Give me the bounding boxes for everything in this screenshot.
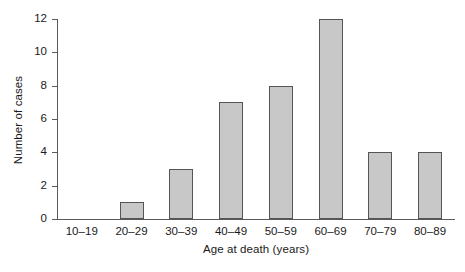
plot-area: 024681012 10–1920–2930–3940–4950–5960–69… — [57, 19, 455, 219]
bar — [319, 19, 343, 219]
x-tick-label: 80–89 — [405, 225, 455, 237]
y-tick-label: 6 — [23, 113, 47, 125]
x-tick-label: 50–59 — [256, 225, 306, 237]
bar-slot: 30–39 — [157, 19, 207, 219]
bar — [368, 152, 392, 219]
x-tick-label: 70–79 — [356, 225, 406, 237]
x-tick-label: 60–69 — [306, 225, 356, 237]
x-tick-label: 40–49 — [206, 225, 256, 237]
bar-slot: 50–59 — [256, 19, 306, 219]
bar — [219, 102, 243, 219]
bar-slot: 70–79 — [356, 19, 406, 219]
y-tick-label: 4 — [23, 146, 47, 158]
bar-slot: 10–19 — [57, 19, 107, 219]
bar-slot: 60–69 — [306, 19, 356, 219]
bar-slot: 20–29 — [107, 19, 157, 219]
x-tick-label: 10–19 — [57, 225, 107, 237]
y-tick-label: 10 — [23, 46, 47, 58]
bar — [269, 86, 293, 219]
y-tick-label: 2 — [23, 180, 47, 192]
x-axis-title: Age at death (years) — [57, 243, 455, 256]
y-tick-label: 12 — [23, 13, 47, 25]
bar — [418, 152, 442, 219]
y-tick-mark — [52, 219, 57, 220]
x-tick-label: 30–39 — [157, 225, 207, 237]
bar-chart-figure: Number of cases 024681012 10–1920–2930–3… — [0, 0, 465, 272]
bar-series: 10–1920–2930–3940–4950–5960–6970–7980–89 — [57, 19, 455, 219]
bar — [169, 169, 193, 219]
x-tick-label: 20–29 — [107, 225, 157, 237]
y-tick-label: 0 — [23, 213, 47, 225]
bar — [120, 202, 144, 219]
bar-slot: 80–89 — [405, 19, 455, 219]
x-axis-line — [57, 219, 455, 220]
y-tick-label: 8 — [23, 80, 47, 92]
bar-slot: 40–49 — [206, 19, 256, 219]
